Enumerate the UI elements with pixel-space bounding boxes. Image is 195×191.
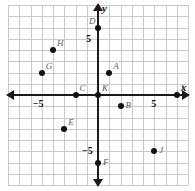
data-point-f (95, 160, 101, 166)
data-point-b (118, 103, 124, 109)
point-label-h: H (57, 39, 64, 48)
point-label-g: G (46, 62, 53, 71)
y-tick-label-negative-5: −5 (82, 146, 93, 156)
data-point-h (50, 47, 56, 53)
data-point-k (95, 92, 101, 98)
x-tick-label-negative-5: −5 (33, 99, 44, 109)
data-point-a (106, 70, 112, 76)
point-label-e: E (68, 118, 74, 127)
y-axis-down-arrow-icon (93, 179, 103, 187)
y-tick-label-positive-5: 5 (86, 34, 91, 44)
point-label-d: D (89, 17, 96, 26)
data-point-c (73, 92, 79, 98)
point-label-j: J (159, 146, 163, 155)
y-axis-label: y (102, 3, 107, 14)
point-label-i: I (181, 84, 184, 93)
data-point-i (174, 92, 180, 98)
data-point-g (39, 70, 45, 76)
point-label-k: K (102, 84, 108, 93)
x-tick-label-positive-5: 5 (151, 99, 156, 109)
point-label-a: A (113, 62, 119, 71)
data-point-j (151, 148, 157, 154)
x-axis-left-arrow-icon (6, 90, 14, 100)
point-label-c: C (80, 84, 86, 93)
point-label-f: F (103, 158, 109, 167)
data-point-e (61, 126, 67, 132)
plot-area: x y −5 5 5 −5 ABCDEFGHIJK (8, 5, 188, 185)
coordinate-plane-figure: x y −5 5 5 −5 ABCDEFGHIJK (0, 0, 195, 191)
point-label-b: B (126, 101, 132, 110)
